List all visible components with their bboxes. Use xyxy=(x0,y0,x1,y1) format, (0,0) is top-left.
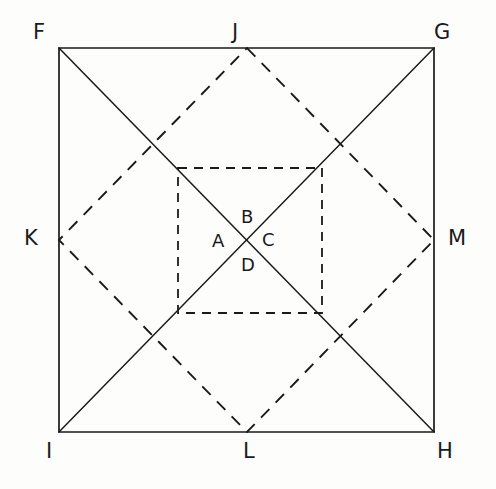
region-label-D: D xyxy=(241,256,255,274)
vertex-label-H: H xyxy=(437,441,453,462)
inner-square xyxy=(178,168,322,313)
vertex-label-J: J xyxy=(232,22,238,43)
vertex-label-M: M xyxy=(448,228,466,249)
figure-canvas xyxy=(0,0,496,489)
region-label-A: A xyxy=(212,232,224,250)
vertex-label-L: L xyxy=(243,441,255,462)
region-label-B: B xyxy=(241,208,253,226)
vertex-label-I: I xyxy=(46,441,52,462)
region-label-C: C xyxy=(262,231,275,249)
vertex-label-F: F xyxy=(33,22,45,43)
vertex-label-K: K xyxy=(24,228,38,249)
geometry-figure: F J G K M I L H A B C D xyxy=(0,0,496,489)
vertex-label-G: G xyxy=(434,22,450,43)
